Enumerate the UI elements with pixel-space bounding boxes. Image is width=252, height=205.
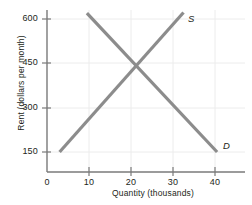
xtick-label-20: 20 — [119, 177, 143, 187]
supply-curve-label: S — [188, 13, 194, 24]
xtick-label-40: 40 — [203, 177, 227, 187]
gridlines — [47, 10, 245, 172]
x-axis-title: Quantity (thousands) — [112, 188, 194, 198]
xtick-label-30: 30 — [161, 177, 185, 187]
demand-curve-label: D — [223, 140, 230, 151]
supply-curve — [60, 13, 184, 153]
xtick-label-0: 0 — [35, 177, 59, 187]
rent-quantity-supply-demand-chart: 600 450 300 150 0 10 20 30 40 Rent (doll… — [0, 0, 252, 205]
demand-curve — [87, 13, 217, 152]
y-axis-title: Rent (dollars per month) — [16, 8, 26, 158]
xtick-label-10: 10 — [77, 177, 101, 187]
